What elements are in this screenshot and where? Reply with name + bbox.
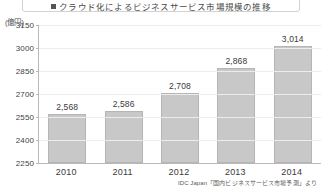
y-axis-tick-mark	[36, 48, 39, 49]
source-note: IDC Japan「国内ビジネスサービス市場予測」より	[178, 178, 317, 187]
y-axis-tick-mark	[36, 117, 39, 118]
x-axis-tick-label: 2010	[38, 167, 94, 177]
gridline	[39, 48, 321, 49]
gridline	[39, 71, 321, 72]
chart-caption-text: クラウド化によるビジネスサービス市場規模の推移	[59, 2, 271, 12]
bar-chart: 2,5682,5862,7082,8683,014 22502400255027…	[0, 25, 323, 165]
y-axis-tick-mark	[36, 94, 39, 95]
gridline	[39, 25, 321, 26]
bar[interactable]	[217, 68, 255, 163]
y-axis-tick-label: 3150	[16, 21, 34, 30]
x-axis-labels: 20102011201220132014	[38, 167, 320, 177]
bar-value-label: 2,708	[150, 81, 210, 91]
x-axis-tick-label: 2012	[151, 167, 207, 177]
bar-value-label: 2,868	[206, 56, 266, 66]
bar[interactable]	[105, 111, 143, 163]
bar-value-label: 3,014	[263, 34, 323, 44]
y-axis-tick-label: 2400	[16, 136, 34, 145]
x-axis-tick-label: 2011	[94, 167, 150, 177]
gridline	[39, 94, 321, 95]
y-axis-tick-label: 3000	[16, 44, 34, 53]
bar[interactable]	[48, 114, 86, 163]
bar[interactable]	[274, 46, 312, 163]
chart-caption: クラウド化によるビジネスサービス市場規模の推移	[51, 2, 271, 12]
x-axis-tick-label: 2013	[207, 167, 263, 177]
bar-value-label: 2,568	[37, 102, 97, 112]
gridline	[39, 140, 321, 141]
y-axis-tick-mark	[36, 140, 39, 141]
square-bullet-icon	[51, 4, 56, 9]
chart-caption-box: クラウド化によるビジネスサービス市場規模の推移	[22, 0, 300, 12]
y-axis-tick-label: 2550	[16, 113, 34, 122]
x-axis-tick-label: 2014	[264, 167, 320, 177]
y-axis-tick-label: 2250	[16, 159, 34, 168]
y-axis-tick-mark	[36, 163, 39, 164]
gridline	[39, 117, 321, 118]
y-axis-tick-label: 2850	[16, 67, 34, 76]
bar-value-label: 2,586	[94, 99, 154, 109]
bar[interactable]	[161, 93, 199, 163]
y-axis-tick-mark	[36, 71, 39, 72]
plot-area: 2,5682,5862,7082,8683,014 22502400255027…	[38, 25, 321, 164]
y-axis-tick-label: 2700	[16, 90, 34, 99]
y-axis-tick-mark	[36, 25, 39, 26]
